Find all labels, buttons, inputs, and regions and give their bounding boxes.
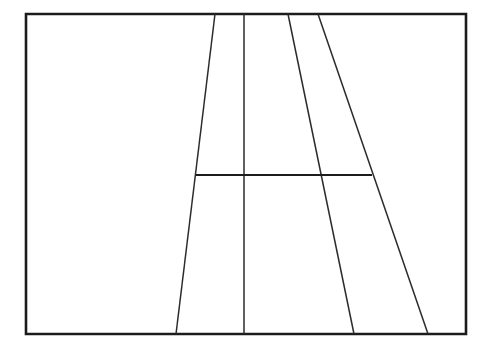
tennis-court-line-drawing: Perspective line drawing of a tennis cou… xyxy=(0,0,489,355)
figure-canvas: Perspective line drawing of a tennis cou… xyxy=(0,0,489,355)
